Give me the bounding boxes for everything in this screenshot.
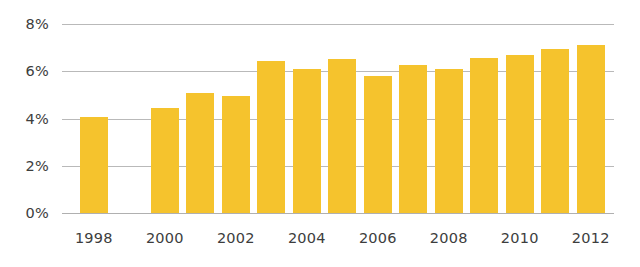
y-tick-label-4pct: 4% [26, 111, 49, 127]
y-tick-label-0pct: 0% [26, 205, 49, 221]
plot-area [62, 24, 614, 213]
gridline-0 [62, 213, 614, 214]
bar-chart: 0%2%4%6%8% 19982000200220042006200820102… [0, 0, 640, 267]
bar-1998 [80, 117, 108, 213]
bar-2002 [222, 96, 250, 213]
x-tick-label-2000: 2000 [146, 230, 184, 246]
x-tick-label-2002: 2002 [217, 230, 255, 246]
x-tick-label-2006: 2006 [359, 230, 397, 246]
x-tick-label-2012: 2012 [572, 230, 610, 246]
y-tick-label-2pct: 2% [26, 158, 49, 174]
bar-2003 [257, 61, 285, 213]
bar-2011 [541, 49, 569, 213]
x-tick-label-2008: 2008 [430, 230, 468, 246]
bar-2009 [470, 58, 498, 213]
bar-2001 [186, 93, 214, 213]
bar-2008 [435, 69, 463, 213]
bar-2004 [293, 69, 321, 213]
bar-2006 [364, 76, 392, 213]
bars-group [62, 24, 614, 213]
bar-2000 [151, 108, 179, 213]
x-axis: 19982000200220042006200820102012 [62, 222, 614, 262]
bar-2010 [506, 55, 534, 213]
bar-2005 [328, 59, 356, 213]
x-tick-label-2010: 2010 [501, 230, 539, 246]
y-axis: 0%2%4%6%8% [0, 0, 62, 267]
x-tick-label-2004: 2004 [288, 230, 326, 246]
bar-2012 [577, 45, 605, 213]
bar-2007 [399, 65, 427, 213]
y-tick-label-8pct: 8% [26, 16, 49, 32]
y-tick-label-6pct: 6% [26, 63, 49, 79]
x-tick-label-1998: 1998 [75, 230, 113, 246]
